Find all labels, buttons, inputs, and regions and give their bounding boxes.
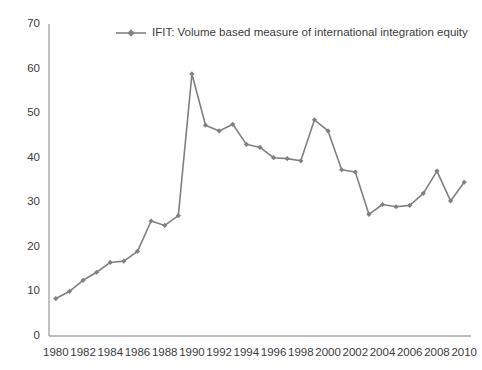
data-point-marker — [189, 71, 194, 76]
legend-marker-icon — [116, 27, 146, 39]
y-axis-tick-label: 40 — [14, 152, 40, 164]
data-point-marker — [353, 169, 358, 174]
data-point-marker — [149, 218, 154, 223]
data-point-marker — [298, 158, 303, 163]
chart-plot-area — [0, 0, 482, 370]
data-series-line — [56, 74, 464, 299]
axis-lines — [49, 24, 471, 336]
chart-figure: 706050403020100 198019821984198619881990… — [0, 0, 482, 370]
data-point-marker — [217, 128, 222, 133]
y-axis-tick-label: 0 — [14, 330, 40, 342]
y-axis-tick-label: 30 — [14, 196, 40, 208]
y-axis-tick-label: 10 — [14, 285, 40, 297]
data-point-marker — [394, 204, 399, 209]
legend-entry-label: IFIT: Volume based measure of internatio… — [152, 27, 468, 39]
data-point-marker — [203, 123, 208, 128]
y-axis-tick-label: 20 — [14, 241, 40, 253]
data-point-markers — [53, 71, 467, 301]
y-axis-tick-label: 60 — [14, 63, 40, 75]
chart-legend: IFIT: Volume based measure of internatio… — [116, 25, 468, 41]
data-point-marker — [339, 167, 344, 172]
x-axis-tick-label: 2010 — [448, 347, 480, 359]
y-axis-tick-label: 50 — [14, 107, 40, 119]
y-axis-tick-label: 70 — [14, 18, 40, 30]
data-point-marker — [285, 156, 290, 161]
